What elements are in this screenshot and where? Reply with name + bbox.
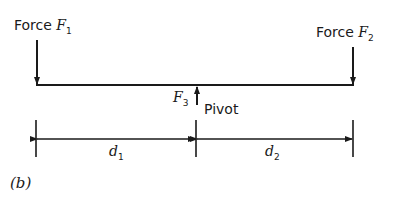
- figure-caption: (b): [10, 174, 31, 192]
- force1-label: Force F1: [14, 17, 72, 36]
- d1-label: d1: [109, 143, 124, 162]
- d2-label: d2: [265, 143, 280, 162]
- force3-label: F3: [173, 89, 188, 108]
- pivot-label: Pivot: [204, 101, 238, 117]
- force2-label: Force F2: [316, 24, 374, 43]
